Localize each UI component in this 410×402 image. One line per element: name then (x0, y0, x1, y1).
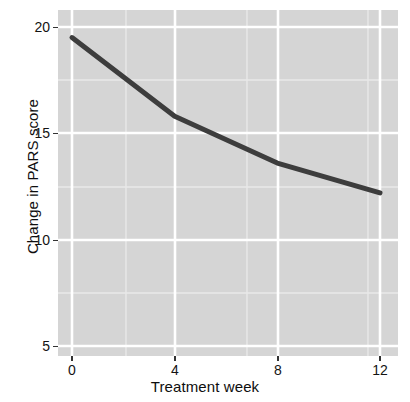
tick-mark-icon (53, 133, 58, 135)
data-series-line (58, 10, 398, 356)
y-axis-title: Change in PARS score (24, 47, 41, 307)
tick-mark-icon (174, 356, 176, 361)
x-axis-title: Treatment week (0, 378, 410, 395)
x-tick-label: 0 (68, 362, 76, 378)
x-tick-12: 12 (360, 356, 400, 378)
line-chart: 20 15 10 5 0 4 8 12 Treatment week Chang… (0, 0, 410, 402)
tick-mark-icon (53, 240, 58, 242)
x-tick-0: 0 (52, 356, 92, 378)
y-tick-label: 5 (42, 338, 53, 354)
x-tick-label: 4 (171, 362, 179, 378)
tick-mark-icon (53, 27, 58, 29)
y-tick-20: 20 (0, 19, 58, 35)
tick-mark-icon (379, 356, 381, 361)
tick-mark-icon (53, 346, 58, 348)
tick-mark-icon (71, 356, 73, 361)
plot-panel (58, 10, 398, 356)
x-tick-label: 12 (372, 362, 388, 378)
x-tick-4: 4 (155, 356, 195, 378)
tick-mark-icon (277, 356, 279, 361)
x-tick-label: 8 (274, 362, 282, 378)
x-tick-8: 8 (258, 356, 298, 378)
y-tick-5: 5 (0, 338, 58, 354)
y-tick-label: 20 (34, 19, 53, 35)
